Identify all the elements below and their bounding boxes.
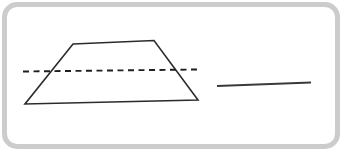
dashed-cross-section-line	[23, 70, 197, 72]
geometry-figure	[0, 0, 344, 155]
figure-card	[0, 0, 344, 155]
answer-blank-line	[217, 83, 311, 87]
trapezoid-shape	[25, 41, 198, 105]
